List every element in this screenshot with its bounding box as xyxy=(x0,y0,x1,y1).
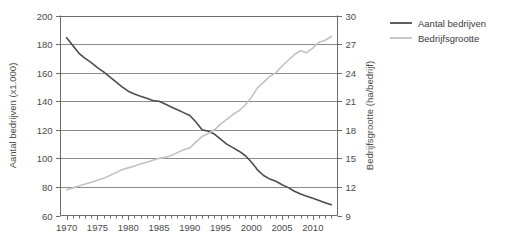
right-tick-label: 15 xyxy=(346,153,357,164)
series-lines xyxy=(67,36,332,204)
x-tick-label: 1990 xyxy=(179,222,200,233)
x-axis-tick-labels: 197019751980198519901995200020052010 xyxy=(56,222,323,233)
left-axis-ticks xyxy=(56,17,61,217)
left-tick-label: 80 xyxy=(42,182,53,193)
x-tick-label: 1970 xyxy=(56,222,77,233)
right-tick-label: 12 xyxy=(346,182,357,193)
series-line-bedrijfsgrootte xyxy=(67,36,332,189)
right-axis-tick-labels: 912151821242730 xyxy=(346,11,357,222)
right-tick-label: 21 xyxy=(346,96,357,107)
line-chart: 197019751980198519901995200020052010 608… xyxy=(0,0,524,252)
left-tick-label: 100 xyxy=(37,153,53,164)
series-line-aantal-bedrijven xyxy=(67,38,332,205)
left-axis-tick-labels: 6080100120140160180200 xyxy=(37,11,53,222)
left-tick-label: 200 xyxy=(37,11,53,22)
right-tick-label: 27 xyxy=(346,39,357,50)
left-tick-label: 180 xyxy=(37,39,53,50)
left-tick-label: 160 xyxy=(37,68,53,79)
left-tick-label: 140 xyxy=(37,96,53,107)
left-axis-title: Aantal bedrijven (x1.000) xyxy=(7,63,18,169)
right-tick-label: 18 xyxy=(346,125,357,136)
chart-container: 197019751980198519901995200020052010 608… xyxy=(0,0,524,252)
left-tick-label: 60 xyxy=(42,211,53,222)
x-tick-label: 1975 xyxy=(87,222,108,233)
right-axis-title: Bedrijfsgrootte (ha/bedrijf) xyxy=(364,61,375,170)
x-tick-label: 2010 xyxy=(302,222,323,233)
left-axis-title-text: Aantal bedrijven (x1.000) xyxy=(7,63,18,169)
legend-label: Aantal bedrijven xyxy=(418,18,486,29)
right-tick-label: 9 xyxy=(346,211,351,222)
x-axis-ticks xyxy=(68,216,332,221)
legend-label: Bedrijfsgrootte xyxy=(418,33,479,44)
x-tick-label: 2000 xyxy=(241,222,262,233)
plot-frame xyxy=(61,16,338,216)
left-tick-label: 120 xyxy=(37,125,53,136)
x-tick-label: 2005 xyxy=(272,222,293,233)
grid-lines xyxy=(61,17,338,188)
x-tick-label: 1995 xyxy=(210,222,231,233)
x-tick-label: 1980 xyxy=(118,222,139,233)
right-axis-title-text: Bedrijfsgrootte (ha/bedrijf) xyxy=(364,61,375,170)
right-axis-ticks xyxy=(338,17,343,217)
chart-legend: Aantal bedrijvenBedrijfsgrootte xyxy=(390,18,486,44)
x-tick-label: 1985 xyxy=(148,222,169,233)
right-tick-label: 30 xyxy=(346,11,357,22)
right-tick-label: 24 xyxy=(346,68,357,79)
